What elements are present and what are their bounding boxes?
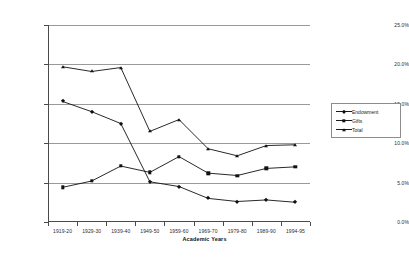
legend-item-endowment[interactable]: Endowment [334, 107, 398, 116]
legend-marker-triangle-icon [336, 125, 352, 134]
legend-label-endowment: Endowment [352, 109, 378, 115]
data-point-total [264, 144, 268, 147]
x-tick-mark [106, 222, 107, 226]
data-point-gifts [148, 171, 151, 174]
y-tick-label: 0.0% [365, 219, 409, 225]
legend-marker-square-icon [336, 116, 352, 125]
legend-item-total[interactable]: Total [334, 125, 398, 134]
y-tick-label: 10.0% [365, 140, 409, 146]
x-axis-title: Academic Years [0, 236, 409, 242]
legend-label-gifts: Gifts [352, 118, 362, 124]
data-point-total [293, 143, 297, 146]
data-point-total [206, 147, 210, 150]
data-point-gifts [236, 174, 239, 177]
data-point-total [90, 70, 94, 73]
x-tick-mark [281, 222, 282, 226]
legend-item-gifts[interactable]: Gifts [334, 116, 398, 125]
y-tick-label: 5.0% [365, 180, 409, 186]
x-tick-mark [252, 222, 253, 226]
data-point-gifts [61, 186, 64, 189]
x-tick-mark [194, 222, 195, 226]
data-point-total [148, 130, 152, 133]
data-point-gifts [265, 167, 268, 170]
data-point-gifts [90, 179, 93, 182]
x-tick-mark [135, 222, 136, 226]
data-point-total [177, 118, 181, 121]
data-point-total [61, 65, 65, 68]
data-point-gifts [177, 155, 180, 158]
line-chart: 0.0%5.0%10.0%15.0%20.0%25.0% 1919-201929… [0, 0, 409, 260]
legend-marker-diamond-icon [336, 107, 352, 116]
x-tick-mark [77, 222, 78, 226]
plot-area [48, 25, 310, 222]
y-tick-label: 25.0% [365, 22, 409, 28]
data-point-gifts [119, 164, 122, 167]
y-tick-label: 20.0% [365, 61, 409, 67]
x-tick-label: 1994-95 [275, 228, 315, 235]
legend-label-total: Total [352, 127, 363, 133]
x-tick-mark [310, 222, 311, 226]
data-point-total [235, 154, 239, 157]
x-tick-mark [164, 222, 165, 226]
x-tick-mark [48, 222, 49, 226]
data-point-gifts [294, 165, 297, 168]
x-tick-mark [223, 222, 224, 226]
data-point-total [119, 66, 123, 69]
data-point-gifts [206, 171, 209, 174]
legend: Endowment Gifts Total [331, 103, 401, 138]
